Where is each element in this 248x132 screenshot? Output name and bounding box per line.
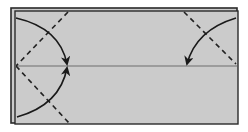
origami-diagram bbox=[0, 0, 248, 132]
paper-front-layer bbox=[15, 11, 238, 124]
